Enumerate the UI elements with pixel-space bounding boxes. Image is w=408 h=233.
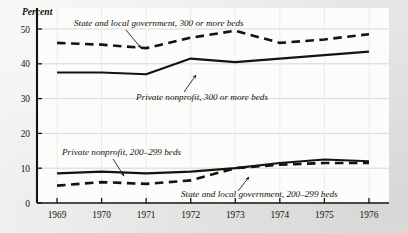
x-tick-label: 1972	[181, 210, 200, 220]
y-tick-label: 0	[25, 199, 30, 209]
annotation-label-private-nonprofit-300: Private nonprofit, 300 or more beds	[135, 92, 268, 102]
x-axis-tick-labels: 19691970197119721973197419751976	[48, 210, 379, 220]
x-tick-label: 1976	[360, 210, 379, 220]
x-tick-label: 1973	[226, 210, 245, 220]
x-tick-label: 1969	[48, 210, 67, 220]
x-tick-label: 1970	[92, 210, 111, 220]
line-chart: 01020304050 1969197019711972197319741975…	[0, 0, 408, 233]
annotation-label-state-local-300: State and local government, 300 or more …	[74, 18, 244, 28]
chart-figure: 01020304050 1969197019711972197319741975…	[0, 0, 408, 233]
x-tick-label: 1975	[315, 210, 334, 220]
y-tick-label: 20	[21, 129, 31, 139]
annotation-label-state-local-200: State and local government, 200–299 beds	[181, 189, 338, 199]
annotation-label-private-nonprofit-200: Private nonprofit, 200–299 beds	[61, 147, 182, 157]
y-tick-label: 10	[21, 164, 31, 174]
y-axis-title: Percent	[22, 6, 53, 17]
x-tick-label: 1971	[137, 210, 156, 220]
y-tick-label: 30	[21, 94, 31, 104]
x-tick-label: 1974	[270, 210, 289, 220]
y-tick-label: 50	[21, 25, 31, 35]
y-tick-label: 40	[21, 59, 31, 69]
y-axis-tick-labels: 01020304050	[21, 25, 31, 209]
